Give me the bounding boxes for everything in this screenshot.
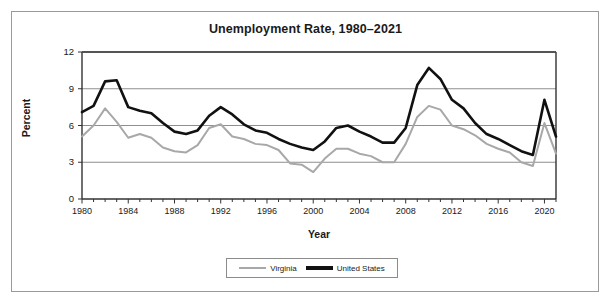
chart-legend: Virginia United States xyxy=(226,258,398,278)
chart-screenshot: Unemployment Rate, 1980–2021 Percent 036… xyxy=(0,0,611,304)
legend-item-united-states: United States xyxy=(306,264,385,273)
y-tick-label-6: 6 xyxy=(48,120,74,131)
x-tick-label-2008: 2008 xyxy=(383,206,429,216)
x-tick-label-2012: 2012 xyxy=(429,206,475,216)
legend-swatch-virginia-icon xyxy=(239,267,266,270)
x-tick-label-1980: 1980 xyxy=(59,206,105,216)
x-tick-label-1988: 1988 xyxy=(151,206,197,216)
x-tick-label-2020: 2020 xyxy=(521,206,567,216)
x-tick-label-2016: 2016 xyxy=(475,206,521,216)
x-tick-label-1984: 1984 xyxy=(105,206,151,216)
legend-label-united-states: United States xyxy=(337,264,385,273)
x-tick-label-2000: 2000 xyxy=(290,206,336,216)
x-tick-label-1992: 1992 xyxy=(198,206,244,216)
y-tick-label-12: 12 xyxy=(48,46,74,57)
x-tick-label-1996: 1996 xyxy=(244,206,290,216)
y-tick-label-0: 0 xyxy=(48,193,74,204)
y-tick-label-3: 3 xyxy=(48,156,74,167)
data-series-lines xyxy=(82,68,556,172)
legend-swatch-united-states-icon xyxy=(306,266,333,270)
x-axis-title: Year xyxy=(82,228,556,240)
legend-label-virginia: Virginia xyxy=(270,264,297,273)
x-tick-label-2004: 2004 xyxy=(336,206,382,216)
legend-item-virginia: Virginia xyxy=(239,264,297,273)
y-tick-label-9: 9 xyxy=(48,83,74,94)
